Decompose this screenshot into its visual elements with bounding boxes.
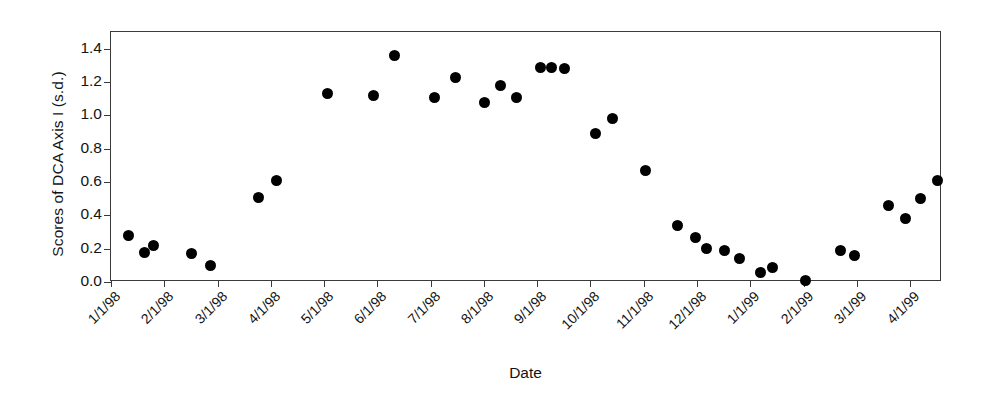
y-axis-tick [104,282,111,283]
scatter-chart-figure: Scores of DCA Axis I (s.d.) 0.00.20.40.6… [0,0,984,403]
data-point [690,232,701,243]
y-axis-tick-label: 0.8 [56,140,102,156]
y-axis-tick-label: 1.2 [56,73,102,89]
x-axis-tick [537,280,538,287]
y-axis-tick-label: 1.4 [56,40,102,56]
data-point [734,253,745,264]
data-point [900,213,911,224]
x-axis-tick-label: 4/1/99 [870,288,922,340]
x-axis-tick-label: 10/1/98 [550,288,602,340]
x-axis-tick-labels: 1/1/982/1/983/1/984/1/985/1/986/1/987/1/… [110,288,941,348]
y-axis-tick [104,215,111,216]
data-point [719,245,730,256]
y-axis-tick [104,149,111,150]
y-axis-tick-label: 0.2 [56,240,102,256]
data-point [767,262,778,273]
y-axis-tick [104,49,111,50]
x-axis-tick [644,280,645,287]
data-point [186,248,197,259]
y-axis-tick-label: 0.0 [56,273,102,289]
data-point [883,200,894,211]
data-point [123,230,134,241]
x-axis-tick-label: 12/1/98 [657,288,709,340]
data-point [495,80,506,91]
x-axis-tick [324,280,325,287]
x-axis-tick [271,280,272,287]
data-point [849,250,860,261]
data-point [932,175,943,186]
x-axis-tick [910,280,911,287]
y-axis-tick-label: 0.6 [56,173,102,189]
y-axis-tick [104,115,111,116]
x-axis-tick-label: 3/1/98 [178,288,230,340]
y-axis-tick [104,249,111,250]
x-axis-tick-label: 11/1/98 [604,288,656,340]
data-point [389,50,400,61]
plot-area [110,31,941,281]
data-point [672,220,683,231]
x-axis-tick [377,280,378,287]
data-point [835,245,846,256]
x-axis-tick-label: 7/1/98 [391,288,443,340]
data-point [590,128,601,139]
data-point [479,97,490,108]
data-point [755,267,766,278]
y-axis-tick [104,182,111,183]
data-point [450,72,461,83]
x-axis-tick [111,280,112,287]
x-axis-tick [484,280,485,287]
data-point [322,88,333,99]
data-point [368,90,379,101]
x-axis-tick [697,280,698,287]
data-point [546,62,557,73]
x-axis-tick [164,280,165,287]
data-point [205,260,216,271]
y-axis-tick [104,82,111,83]
y-axis-tick-label: 0.4 [56,207,102,223]
x-axis-tick [218,280,219,287]
data-point [511,92,522,103]
data-point [640,165,651,176]
x-axis-tick-label: 9/1/98 [497,288,549,340]
x-axis-tick-label: 5/1/98 [284,288,336,340]
data-point [559,63,570,74]
x-axis-tick-label: 4/1/98 [231,288,283,340]
x-axis-tick-label: 8/1/98 [444,288,496,340]
x-axis-title: Date [110,364,941,382]
x-axis-tick [431,280,432,287]
data-point [148,240,159,251]
data-point [535,62,546,73]
data-point [607,113,618,124]
x-axis-tick [857,280,858,287]
data-point [915,193,926,204]
y-axis-tick-label: 1.0 [56,107,102,123]
x-axis-tick-label: 6/1/98 [337,288,389,340]
data-point [429,92,440,103]
x-axis-tick-label: 2/1/99 [763,288,815,340]
x-axis-tick-label: 2/1/98 [124,288,176,340]
x-axis-tick [750,280,751,287]
y-axis-tick-labels: 0.00.20.40.60.81.01.21.4 [52,0,102,403]
x-axis-tick-label: 1/1/99 [710,288,762,340]
x-axis-tick [590,280,591,287]
data-point [701,243,712,254]
data-point [253,192,264,203]
data-point [271,175,282,186]
x-axis-tick-label: 3/1/99 [817,288,869,340]
data-point [800,275,811,286]
